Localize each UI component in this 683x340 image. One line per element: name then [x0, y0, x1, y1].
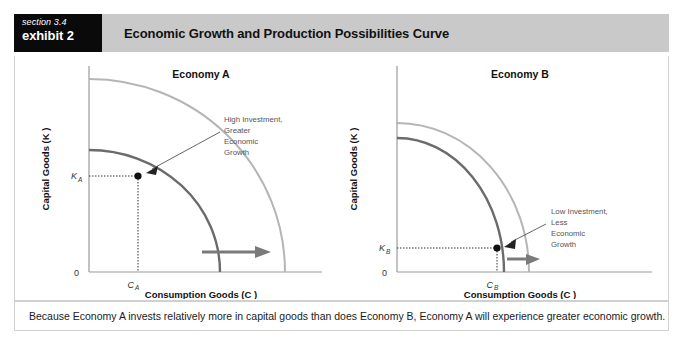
chart-a-annotation-line-2: Greater: [224, 126, 251, 135]
chart-economy-a: Economy A High Investment, Greate: [40, 66, 322, 299]
chart-b-y-tick-label: K: [379, 243, 386, 253]
chart-b-annotation-line-4: Growth: [551, 240, 576, 249]
chart-b-x-axis-label: Consumption Goods (C ): [464, 289, 576, 299]
charts-panel: Economy A High Investment, Greate: [14, 56, 669, 301]
chart-a-point: [134, 172, 141, 179]
chart-a-x-axis-label: Consumption Goods (C ): [145, 289, 257, 299]
chart-a-y-axis-label: Capital Goods (K ): [40, 128, 51, 211]
exhibit-header: section 3.4 exhibit 2 Economic Growth an…: [14, 14, 669, 52]
chart-a-x-tick-label: C: [128, 280, 135, 290]
charts-svg: Economy A High Investment, Greate: [15, 56, 668, 299]
badge-exhibit-label: exhibit 2: [22, 28, 102, 43]
exhibit-caption: Because Economy A invests relatively mor…: [14, 301, 669, 331]
chart-b-point: [493, 244, 500, 251]
chart-b-growth-arrow-head: [526, 254, 540, 265]
chart-b-annotation-line-2: Less: [551, 218, 568, 227]
chart-a-annotation-leader: [152, 132, 220, 169]
chart-a-annotation-line-4: Growth: [224, 148, 249, 157]
chart-b-annotation-line-3: Economic: [551, 229, 585, 238]
badge-section-label: section 3.4: [22, 17, 102, 28]
chart-a-x-tick-subscript: A: [134, 284, 139, 291]
chart-b-y-tick-subscript: B: [386, 248, 391, 255]
caption-text: Because Economy A invests relatively mor…: [29, 310, 665, 322]
chart-a-annotation-line-3: Economic: [224, 137, 258, 146]
chart-b-expanded-ppc: [397, 123, 529, 272]
chart-b-annotation-arrowhead: [504, 239, 516, 249]
chart-economy-b: Economy B Low Investment, Less: [348, 66, 652, 299]
chart-a-annotation-arrowhead: [146, 166, 158, 175]
chart-b-annotation-leader: [511, 224, 546, 242]
chart-a-annotation-line-1: High Investment,: [224, 115, 283, 124]
chart-a-title: Economy A: [172, 68, 230, 80]
chart-b-initial-ppc: [397, 138, 504, 272]
chart-b-y-axis-label: Capital Goods (K ): [348, 128, 359, 211]
chart-a-y-tick-subscript: A: [77, 176, 82, 183]
chart-b-annotation-line-1: Low Investment,: [551, 207, 608, 216]
chart-b-title: Economy B: [491, 68, 549, 80]
chart-a-origin-label: 0: [74, 268, 79, 278]
chart-a-expanded-ppc: [89, 79, 285, 272]
page-title: Economic Growth and Production Possibili…: [102, 14, 669, 52]
chart-a-y-tick-label: K: [71, 171, 78, 181]
exhibit-container: section 3.4 exhibit 2 Economic Growth an…: [0, 0, 683, 340]
chart-b-origin-label: 0: [382, 268, 387, 278]
chart-a-growth-arrow-head: [255, 246, 271, 258]
exhibit-badge: section 3.4 exhibit 2: [14, 14, 102, 52]
